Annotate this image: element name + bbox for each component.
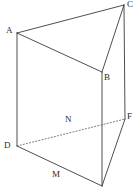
vertex-label-a: A [6,26,13,35]
edge-ab [17,33,102,72]
vertex-label-b: B [104,73,110,82]
edge-bc [102,5,124,72]
edge-de [17,146,102,186]
geometry-figure: A B C D F M N [0,0,138,191]
vertex-label-c: C [127,0,133,9]
edge-ac [17,5,124,33]
vertex-label-f: F [127,112,132,121]
vertex-label-d: D [4,141,11,150]
point-label-m: M [52,170,60,179]
point-label-n: N [65,115,72,124]
edge-ef [102,119,125,186]
edge-cf [124,5,125,119]
prism-drawing [0,0,138,191]
